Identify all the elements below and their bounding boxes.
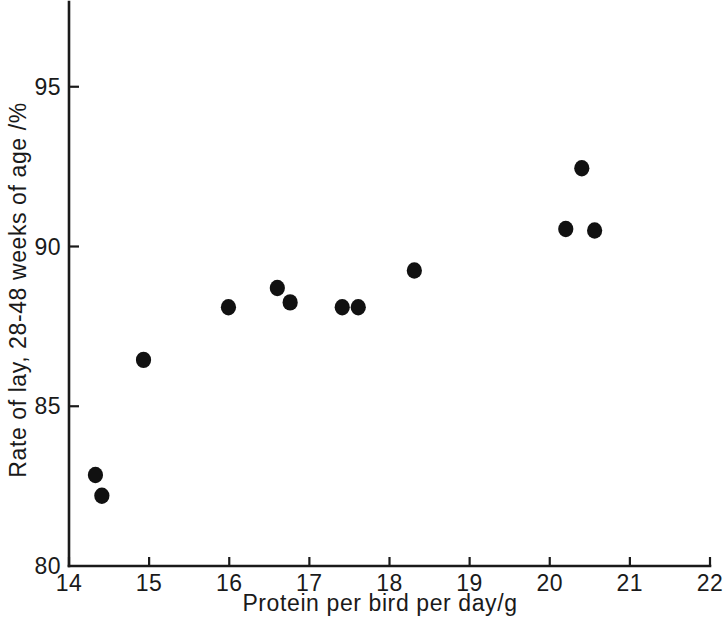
data-point [558,221,573,237]
data-point-series [88,160,602,504]
data-point [88,467,103,483]
data-point [283,294,298,310]
data-point [221,299,236,315]
data-point [351,299,366,315]
x-tick-label: 21 [617,570,644,596]
y-tick-label: 95 [34,74,61,100]
x-axis-ticks [69,557,710,566]
y-axis-ticks [69,87,79,407]
y-axis-tick-labels: 80859095 [34,74,61,579]
data-point [587,222,602,238]
data-point [136,352,151,368]
x-tick-label: 16 [216,570,243,596]
x-axis-title: Protein per bird per day/g [242,590,517,616]
data-point [574,160,589,176]
y-tick-label: 80 [34,553,61,579]
x-tick-label: 22 [697,570,724,596]
y-tick-label: 85 [34,393,61,419]
data-point [94,488,109,504]
axis-lines [69,2,710,566]
y-tick-label: 90 [34,234,61,260]
x-tick-label: 15 [136,570,163,596]
y-axis-title: Rate of lay, 28-48 weeks of age /% [5,102,31,477]
data-point [407,262,422,278]
plot-canvas: 141516171819202122 80859095 Protein per … [0,0,725,620]
x-tick-label: 20 [536,570,563,596]
data-point [335,299,350,315]
data-point [270,280,285,296]
scatter-plot-figure: 141516171819202122 80859095 Protein per … [0,0,725,620]
